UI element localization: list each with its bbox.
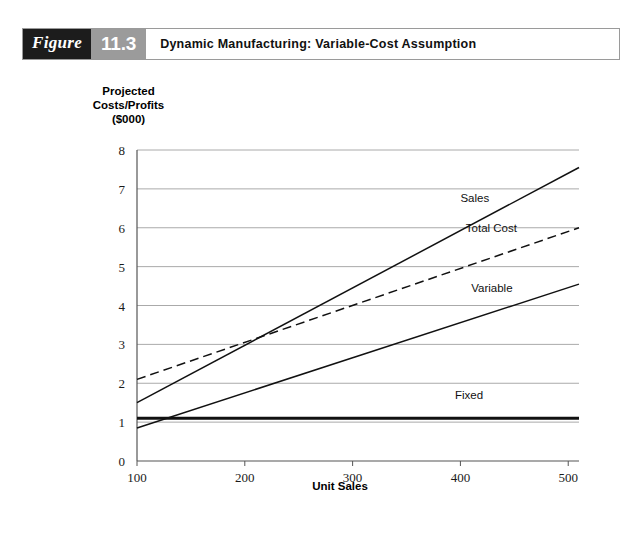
figure-number-label: 11.3 <box>91 29 146 59</box>
y-tick-label-7: 7 <box>119 182 126 197</box>
series-label-variable: Variable <box>471 282 512 294</box>
series-line-sales <box>137 167 579 402</box>
x-axis-title: Unit Sales <box>240 480 440 492</box>
y-tick-label-1: 1 <box>119 415 126 430</box>
figure-title: Dynamic Manufacturing: Variable-Cost Ass… <box>146 29 619 59</box>
y-axis-title-line-1: Projected <box>66 84 191 98</box>
y-tick-label-2: 2 <box>119 376 126 391</box>
y-axis-title-line-2: Costs/Profits <box>66 98 191 112</box>
figure-page: { "header": { "figure_word": "Figure", "… <box>0 0 643 548</box>
y-tick-label-6: 6 <box>119 221 126 236</box>
x-tick-label-400: 400 <box>451 470 471 485</box>
y-tick-label-8: 8 <box>119 143 126 158</box>
x-tick-label-100: 100 <box>127 470 147 485</box>
series-label-total-cost: Total Cost <box>466 222 518 234</box>
series-labels-group: SalesTotal CostVariableFixed <box>455 192 518 400</box>
gridlines-group <box>137 150 579 422</box>
y-axis-title: Projected Costs/Profits ($000) <box>66 84 191 126</box>
series-label-fixed: Fixed <box>455 389 483 401</box>
y-tick-label-5: 5 <box>119 260 126 275</box>
y-tick-label-0: 0 <box>119 454 126 469</box>
series-lines-group <box>137 167 579 427</box>
y-axis-title-line-3: ($000) <box>66 112 191 126</box>
figure-word-label: Figure <box>23 29 91 59</box>
y-tick-label-4: 4 <box>119 299 126 314</box>
figure-header-bar: Figure 11.3 Dynamic Manufacturing: Varia… <box>22 28 620 60</box>
x-tick-label-500: 500 <box>558 470 578 485</box>
chart-plot: 012345678 100200300400500 SalesTotal Cos… <box>0 60 643 530</box>
series-label-sales: Sales <box>460 192 489 204</box>
y-tick-label-3: 3 <box>119 337 126 352</box>
y-tick-labels-group: 012345678 <box>119 143 126 469</box>
chart-container: Projected Costs/Profits ($000) 012345678… <box>0 60 643 530</box>
